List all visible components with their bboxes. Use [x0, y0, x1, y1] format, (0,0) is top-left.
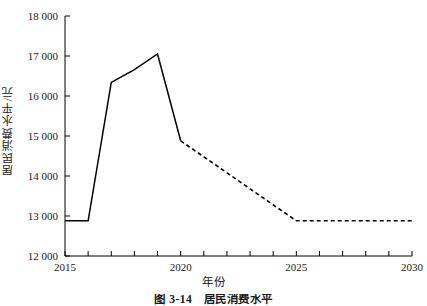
x-axis-tick-label: 2015 [54, 262, 76, 273]
x-axis-tick-label: 2025 [285, 262, 307, 273]
figure-caption-label: 图 3-14 居民消费水平 [154, 294, 272, 305]
x-axis-tick-label: 2020 [170, 262, 192, 273]
x-axis-tick-label: 2030 [401, 262, 423, 273]
x-axis-title: 年份 [0, 277, 427, 289]
x-axis-title-label: 年份 [202, 276, 225, 288]
figure-caption: 图 3-14 居民消费水平 [0, 294, 427, 306]
